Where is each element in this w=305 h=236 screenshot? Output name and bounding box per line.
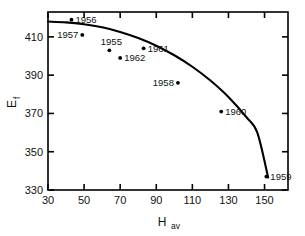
data-point-marker [118, 56, 122, 60]
x-axis-title-subscript: av [171, 221, 181, 231]
x-axis-tick-labels: 30507090110130150 [42, 194, 274, 206]
y-axis-title-subscript: f [12, 96, 22, 99]
data-point-marker [107, 48, 111, 52]
data-point-label: 1955 [101, 36, 122, 47]
scatter-plot: 30507090110130150 330350370390410 195619… [0, 0, 305, 236]
data-point-label: 1958 [153, 77, 174, 88]
x-axis-title-text: H [158, 215, 167, 229]
data-point-labels: 19561957195519621961195819601959 [57, 14, 291, 182]
x-tick-label: 30 [42, 194, 54, 206]
x-tick-label: 110 [184, 194, 202, 206]
data-points [70, 18, 269, 179]
data-point-marker [142, 46, 146, 50]
data-point-label: 1956 [75, 14, 96, 25]
y-tick-label: 390 [25, 69, 43, 81]
x-tick-label: 50 [78, 194, 90, 206]
data-point-label: 1960 [225, 106, 246, 117]
x-axis-title: H av [158, 215, 181, 231]
data-point-marker [176, 81, 180, 85]
data-point-marker [80, 33, 84, 37]
data-point-marker [70, 18, 74, 22]
data-point-label: 1959 [270, 171, 291, 182]
y-axis-ticks [48, 37, 288, 190]
x-tick-label: 90 [150, 194, 162, 206]
data-point-label: 1961 [148, 43, 169, 54]
x-tick-label: 130 [219, 194, 237, 206]
chart-figure: 30507090110130150 330350370390410 195619… [0, 0, 305, 236]
data-point-marker [264, 175, 268, 179]
data-point-label: 1957 [57, 29, 78, 40]
y-tick-label: 370 [25, 107, 43, 119]
y-axis-title: E f [5, 96, 22, 108]
x-tick-label: 70 [114, 194, 126, 206]
y-axis-tick-labels: 330350370390410 [25, 31, 43, 196]
y-tick-label: 350 [25, 146, 43, 158]
data-point-marker [219, 110, 223, 114]
y-tick-label: 410 [25, 31, 43, 43]
data-point-label: 1962 [124, 52, 145, 63]
x-tick-label: 150 [255, 194, 273, 206]
y-tick-label: 330 [25, 184, 43, 196]
plot-frame [48, 12, 288, 190]
y-axis-title-text: E [5, 100, 19, 108]
plot-border [48, 12, 288, 190]
